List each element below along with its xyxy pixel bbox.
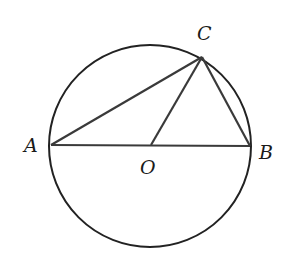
label-a: A	[22, 134, 38, 156]
label-o: O	[140, 156, 156, 178]
label-b: B	[258, 141, 273, 163]
geometry-diagram: C A B O	[0, 0, 286, 270]
segment-ac	[51, 57, 202, 145]
label-c: C	[197, 22, 212, 44]
diameter-ab	[51, 145, 250, 146]
segment-oc	[151, 57, 202, 145]
segment-bc	[202, 57, 250, 146]
